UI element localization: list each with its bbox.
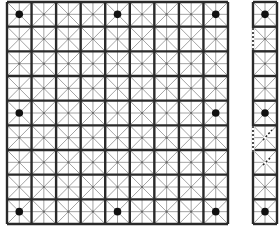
cell-center-dot bbox=[67, 137, 69, 139]
grid-cell bbox=[32, 150, 57, 175]
grid-cell bbox=[253, 51, 277, 76]
cell-center-dot bbox=[43, 13, 45, 15]
grid-cell bbox=[253, 175, 277, 200]
cell-center-dot bbox=[67, 38, 69, 40]
cell-center-dot bbox=[67, 63, 69, 65]
cell-center-dot bbox=[92, 137, 94, 139]
main-board bbox=[7, 2, 228, 224]
grid-cell bbox=[105, 175, 130, 200]
grid-cell bbox=[203, 175, 228, 200]
grid-cell bbox=[130, 175, 155, 200]
grid-cell bbox=[105, 27, 130, 52]
grid-cell bbox=[81, 2, 106, 27]
star-point bbox=[212, 11, 220, 19]
grid-cell bbox=[7, 125, 32, 150]
cell-center-dot bbox=[215, 161, 217, 163]
cell-center-dot bbox=[116, 87, 118, 89]
cell-center-dot bbox=[67, 112, 69, 114]
grid-cell bbox=[179, 101, 204, 126]
cell-center-dot bbox=[18, 87, 20, 89]
cell-center-dot bbox=[190, 63, 192, 65]
cell-center-dot bbox=[166, 87, 168, 89]
cell-center-dot bbox=[141, 63, 143, 65]
grid-cell bbox=[253, 76, 277, 101]
cell-center-dot bbox=[43, 186, 45, 188]
cell-center-dot bbox=[215, 87, 217, 89]
star-point bbox=[15, 11, 23, 19]
cell-center-dot bbox=[141, 186, 143, 188]
grid-cell bbox=[32, 2, 57, 27]
grid-cell bbox=[56, 2, 81, 27]
grid-cell bbox=[81, 199, 106, 224]
grid-cell bbox=[56, 27, 81, 52]
grid-cell bbox=[154, 27, 179, 52]
grid-cell bbox=[7, 76, 32, 101]
cell-center-dot bbox=[116, 63, 118, 65]
cell-center-dot bbox=[166, 13, 168, 15]
star-point bbox=[15, 109, 23, 117]
cell-center-dot bbox=[18, 161, 20, 163]
grid-cell bbox=[154, 101, 179, 126]
cell-center-dot bbox=[141, 211, 143, 213]
cell-center-dot bbox=[264, 186, 266, 188]
grid-cell bbox=[56, 175, 81, 200]
cell-center-dot bbox=[215, 38, 217, 40]
cell-center-dot bbox=[92, 112, 94, 114]
grid-cell bbox=[56, 51, 81, 76]
star-point bbox=[212, 208, 220, 216]
cell-center-dot bbox=[264, 87, 266, 89]
cell-center-dot bbox=[67, 87, 69, 89]
cell-center-dot bbox=[141, 161, 143, 163]
grid-cell bbox=[81, 150, 106, 175]
cell-center-dot bbox=[67, 186, 69, 188]
grid-cell bbox=[81, 27, 106, 52]
cell-center-dot bbox=[43, 137, 45, 139]
grid-cell bbox=[130, 150, 155, 175]
grid-cell bbox=[179, 51, 204, 76]
grid-cell bbox=[7, 51, 32, 76]
cell-center-dot bbox=[43, 161, 45, 163]
grid-cell bbox=[203, 51, 228, 76]
cell-center-dot bbox=[166, 161, 168, 163]
grid-cell bbox=[105, 51, 130, 76]
grid-cell bbox=[179, 2, 204, 27]
cell-center-dot bbox=[67, 13, 69, 15]
cell-center-dot bbox=[43, 211, 45, 213]
grid-cell bbox=[179, 125, 204, 150]
cell-center-dot bbox=[92, 186, 94, 188]
grid-cell bbox=[179, 175, 204, 200]
grid-cell bbox=[81, 101, 106, 126]
cell-center-dot bbox=[190, 137, 192, 139]
star-point bbox=[212, 109, 220, 117]
cell-center-dot bbox=[166, 186, 168, 188]
cell-center-dot bbox=[264, 38, 266, 40]
grid-cell bbox=[154, 2, 179, 27]
cell-center-dot bbox=[116, 186, 118, 188]
star-point bbox=[261, 208, 269, 216]
grid-cell bbox=[154, 125, 179, 150]
grid-cell bbox=[7, 27, 32, 52]
cell-center-dot bbox=[215, 186, 217, 188]
grid-cell bbox=[130, 199, 155, 224]
grid-cell bbox=[154, 51, 179, 76]
grid-cell bbox=[56, 101, 81, 126]
grid-cell bbox=[179, 150, 204, 175]
grid-cell bbox=[154, 199, 179, 224]
grid-cell bbox=[32, 27, 57, 52]
grid-cell bbox=[154, 76, 179, 101]
cell-center-dot bbox=[116, 112, 118, 114]
cell-center-dot bbox=[92, 63, 94, 65]
grid-cell bbox=[105, 125, 130, 150]
grid-cell bbox=[56, 150, 81, 175]
grid-cell bbox=[130, 2, 155, 27]
cell-center-dot bbox=[43, 87, 45, 89]
grid-cell bbox=[179, 199, 204, 224]
grid-cell bbox=[154, 175, 179, 200]
cell-center-dot bbox=[215, 137, 217, 139]
star-point bbox=[114, 11, 122, 19]
cell-center-dot bbox=[264, 63, 266, 65]
grid-cell bbox=[105, 101, 130, 126]
cell-center-dot bbox=[166, 112, 168, 114]
cell-center-dot bbox=[190, 186, 192, 188]
cell-center-dot bbox=[166, 63, 168, 65]
